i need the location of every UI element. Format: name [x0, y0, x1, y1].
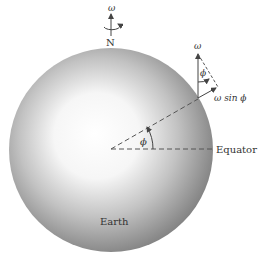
- earth-rotation-diagram: ω N Equator ϕ ω ω sin ϕ ϕ Earth: [0, 0, 264, 266]
- earth-label: Earth: [100, 216, 129, 227]
- phi-small-arc: [198, 79, 209, 82]
- omega-vector-label: ω: [194, 41, 202, 51]
- equator-label: Equator: [216, 144, 257, 155]
- omega-sin-phi-label: ω sin ϕ: [214, 93, 247, 103]
- phi-small-label: ϕ: [200, 68, 206, 78]
- omega-axis-label: ω: [108, 3, 116, 13]
- north-label: N: [106, 37, 115, 48]
- phi-center-label: ϕ: [140, 136, 147, 147]
- rotation-axis-icon: [104, 14, 120, 36]
